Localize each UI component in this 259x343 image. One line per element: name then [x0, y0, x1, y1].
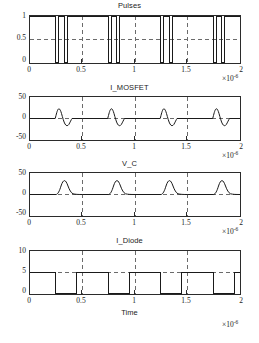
- x-exponent-base-i-diode: ×10: [222, 320, 234, 329]
- xtick-pulses-2: 1: [124, 66, 144, 74]
- xtick-pulses-0: 0: [19, 66, 39, 74]
- subplot-title-v-c: V_C: [0, 159, 259, 168]
- ytick-pulses-0: 0: [0, 56, 26, 64]
- x-exponent-power-i-mosfet: -6: [234, 150, 239, 156]
- xtick-i-diode-3: 1.5: [176, 297, 196, 305]
- axes-i-mosfet: [29, 96, 241, 141]
- subplot-title-i-diode: I_Diode: [0, 236, 259, 245]
- xtick-pulses-3: 1.5: [176, 66, 196, 74]
- ytick-i-diode-0: 0: [0, 287, 26, 295]
- xtick-i-diode-0: 0: [19, 297, 39, 305]
- axes-i-diode: [29, 250, 241, 295]
- xtick-mark-i-mosfet-1: [81, 136, 82, 141]
- ytick-i-diode-1: 5: [0, 267, 26, 275]
- xtick-i-mosfet-3: 1.5: [176, 143, 196, 151]
- xtick-mark-pulses-3: [186, 59, 187, 64]
- ytick-i-mosfet-0: -50: [0, 133, 26, 141]
- x-exponent-power-v-c: -6: [234, 226, 239, 232]
- subplot-title-pulses: Pulses: [0, 1, 259, 10]
- xaxis-label-time: Time: [0, 308, 259, 317]
- gridlines-pulses: [30, 16, 240, 63]
- xtick-v-c-3: 1.5: [176, 219, 196, 227]
- ytick-v-c-0: -50: [0, 209, 26, 217]
- ytick-pulses-1: 0.5: [0, 34, 26, 42]
- plot-area-v-c: [30, 173, 240, 216]
- xtick-mark-pulses-2: [134, 59, 135, 64]
- xtick-v-c-2: 1: [124, 219, 144, 227]
- subplot-i-diode: I_Diode 10 5 0 0 0.5 1 1.5 2 Time ×10: [0, 234, 259, 343]
- xtick-mark-v-c-2: [134, 212, 135, 217]
- plot-area-i-mosfet: [30, 97, 240, 140]
- xtick-mark-i-diode-3: [186, 290, 187, 295]
- ytick-v-c-1: 0: [0, 189, 26, 197]
- xtick-pulses-1: 0.5: [71, 66, 91, 74]
- xtick-mark-i-diode-2: [134, 290, 135, 295]
- ytick-i-mosfet-1: 0: [0, 113, 26, 121]
- xtick-mark-i-mosfet-3: [186, 136, 187, 141]
- plot-area-pulses: [30, 16, 240, 63]
- xtick-mark-v-c-1: [81, 212, 82, 217]
- subplot-pulses: Pulses 1 0.5 0 0 0.5 1 1.5 2 ×10-6: [0, 0, 259, 88]
- axes-v-c: [29, 172, 241, 217]
- xtick-i-mosfet-1: 0.5: [71, 143, 91, 151]
- xtick-i-diode-2: 1: [124, 297, 144, 305]
- xtick-v-c-1: 0.5: [71, 219, 91, 227]
- axes-pulses: [29, 15, 241, 64]
- ytick-pulses-2: 1: [0, 12, 26, 20]
- xtick-mark-pulses-1: [81, 59, 82, 64]
- ytick-v-c-2: 50: [0, 169, 26, 177]
- subplot-i-mosfet: I_MOSFET 50 0 -50 0 0.5 1 1.5 2 ×10-6: [0, 82, 259, 162]
- xtick-v-c-0: 0: [19, 219, 39, 227]
- subplot-v-c: V_C 50 0 -50 0 0.5 1 1.5 2 ×10-6: [0, 158, 259, 238]
- xtick-mark-i-diode-1: [81, 290, 82, 295]
- xtick-i-diode-4: 2: [231, 297, 251, 305]
- xtick-mark-i-mosfet-2: [134, 136, 135, 141]
- ytick-i-diode-2: 10: [0, 247, 26, 255]
- x-exponent-power-pulses: -6: [234, 73, 239, 79]
- xtick-mark-v-c-3: [186, 212, 187, 217]
- ytick-i-mosfet-2: 50: [0, 93, 26, 101]
- xtick-i-diode-1: 0.5: [71, 297, 91, 305]
- x-exponent-power-i-diode: -6: [234, 319, 239, 325]
- xtick-i-mosfet-2: 1: [124, 143, 144, 151]
- scope-figure: Pulses 1 0.5 0 0 0.5 1 1.5 2 ×10-6: [0, 0, 259, 343]
- subplot-title-i-mosfet: I_MOSFET: [0, 83, 259, 92]
- x-exponent-i-diode: ×10-6: [222, 320, 238, 329]
- xtick-i-mosfet-0: 0: [19, 143, 39, 151]
- plot-area-i-diode: [30, 251, 240, 294]
